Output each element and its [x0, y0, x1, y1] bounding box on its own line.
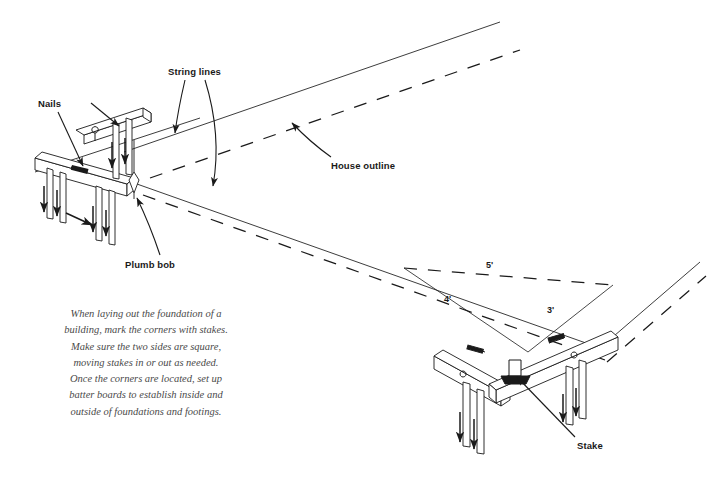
rear-stake-post-2	[126, 118, 132, 175]
caption-line: building, mark the corners with stakes.	[46, 322, 246, 338]
house-outline-right	[607, 276, 706, 362]
corner-batter-board-assembly	[434, 331, 618, 454]
corner-stake-post-1	[463, 382, 470, 447]
corner-nail-block-left	[467, 345, 483, 353]
caption-line: batter boards to establish inside and	[46, 387, 246, 403]
dimension-label-hypotenuse: 5'	[486, 260, 493, 270]
leader-house-outline	[292, 123, 331, 157]
corner-stake-base	[501, 376, 530, 384]
leader-plumb-bob	[137, 198, 160, 255]
corner-stake-head	[509, 360, 521, 376]
caption-line: outside of foundations and footings.	[46, 404, 246, 420]
callout-string-lines: String lines	[168, 66, 221, 77]
illustration-canvas	[0, 0, 709, 502]
caption-block: When laying out the foundation of a buil…	[46, 306, 246, 420]
left-stake-post-4	[109, 190, 115, 245]
dimension-label-leg-right: 3'	[547, 305, 554, 315]
leader-string-lines-short	[175, 80, 185, 133]
callout-stake: Stake	[577, 440, 603, 451]
callout-house-outline: House outline	[331, 160, 395, 171]
caption-line: Once the corners are located, set up	[46, 371, 246, 387]
leader-string-lines-long	[205, 80, 216, 186]
corner-stake-post-3	[566, 366, 573, 425]
string-line-upper	[124, 22, 500, 152]
triangle-legs-group	[404, 268, 613, 352]
corner-stake-post-4	[579, 360, 586, 419]
callout-nails: Nails	[38, 98, 61, 109]
dimension-label-leg-left: 4'	[444, 294, 451, 304]
triangle-leg-4ft	[404, 268, 528, 352]
corner-stake-post-2	[477, 389, 484, 454]
caption-line: When laying out the foundation of a	[46, 306, 246, 322]
left-stake-post-1	[47, 168, 53, 219]
caption-line: moving stakes in or out as needed.	[46, 355, 246, 371]
foundation-layout-illustration: Nails String lines House outline Plumb b…	[0, 0, 709, 502]
triangle-hypotenuse	[404, 268, 613, 285]
caption-line: Make sure the two sides are square,	[46, 339, 246, 355]
callout-plumb-bob: Plumb bob	[125, 259, 175, 270]
left-stake-post-3	[96, 186, 102, 241]
rear-stake-post-1	[113, 122, 119, 179]
left-stake-post-2	[60, 172, 66, 223]
